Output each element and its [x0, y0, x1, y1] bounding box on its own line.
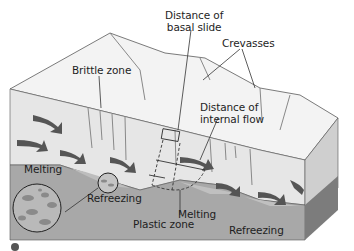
glacier-diagram: Distance of basal slide Crevasses Brittl… [0, 0, 354, 251]
label-crevasses: Crevasses [222, 37, 275, 49]
label-melting-right: Melting [178, 208, 216, 220]
label-refreezing-right: Refreezing [229, 224, 284, 236]
label-brittle-zone: Brittle zone [72, 64, 131, 76]
label-melting-left: Melting [24, 163, 62, 175]
label-distance-basal-slide-line2: basal slide [165, 21, 223, 33]
label-refreezing-left: Refreezing [87, 192, 142, 204]
glacier-block-illustration [0, 0, 354, 251]
label-distance-internal-flow-line1: Distance of [200, 101, 264, 113]
label-distance-basal-slide: Distance of basal slide [165, 9, 223, 33]
label-distance-internal-flow: Distance of internal flow [200, 101, 264, 125]
label-distance-basal-slide-line1: Distance of [165, 9, 223, 21]
footer-bullet-icon [11, 243, 19, 251]
label-distance-internal-flow-line2: internal flow [200, 113, 264, 125]
